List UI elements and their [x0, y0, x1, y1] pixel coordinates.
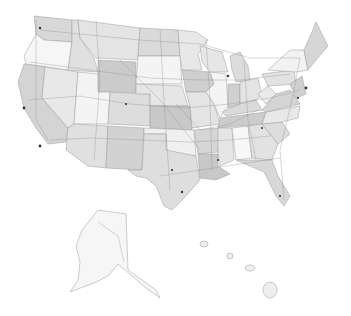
state-new-england[interactable] [304, 22, 328, 70]
state-ohio[interactable] [240, 78, 262, 104]
state-mississippi[interactable] [218, 128, 234, 166]
state-new-mexico[interactable] [106, 126, 144, 170]
state-indiana[interactable] [228, 84, 240, 108]
state-wisconsin[interactable] [200, 46, 228, 72]
hawaii[interactable] [200, 241, 277, 298]
state-wyoming[interactable] [98, 60, 136, 94]
state-michigan[interactable] [230, 52, 250, 82]
state-florida[interactable] [236, 160, 290, 206]
alaska[interactable] [70, 210, 160, 298]
state-new-york[interactable] [268, 50, 308, 72]
state-north-dakota[interactable] [138, 28, 180, 56]
state-kansas[interactable] [150, 106, 192, 130]
state-south-dakota[interactable] [136, 56, 182, 84]
us-map [0, 0, 351, 316]
state-colorado[interactable] [108, 92, 150, 126]
state-arizona[interactable] [66, 124, 108, 168]
contiguous-us [18, 16, 328, 210]
